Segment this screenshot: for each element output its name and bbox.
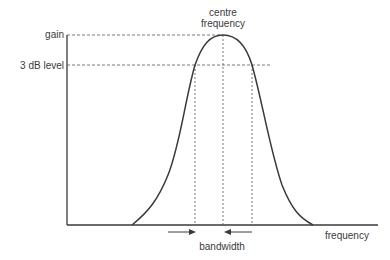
bandwidth-arrow-right [224, 229, 252, 235]
bandwidth-label: bandwidth [199, 241, 245, 252]
centre-label-line1: centre [201, 7, 245, 18]
bandwidth-arrow-left [168, 229, 196, 235]
response-curve [132, 35, 313, 225]
x-axis-label: frequency [325, 230, 369, 241]
gain-label: gain [45, 29, 64, 40]
centre-frequency-label: centre frequency [201, 7, 245, 29]
centre-label-line2: frequency [201, 18, 245, 29]
three-db-label: 3 dB level [20, 60, 64, 71]
